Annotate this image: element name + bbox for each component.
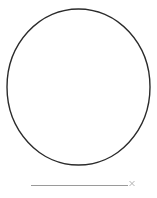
- canvas-background: [0, 0, 157, 198]
- drawing-canvas[interactable]: [0, 0, 157, 198]
- drawing-surface[interactable]: [0, 0, 157, 198]
